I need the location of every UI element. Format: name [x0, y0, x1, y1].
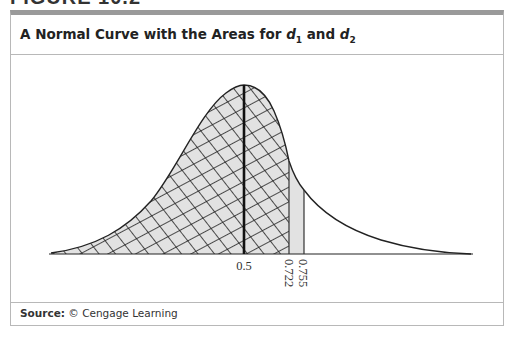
figure-frame: A Normal Curve with the Areas for d1 and… — [10, 10, 504, 326]
title-var-d2: d — [340, 26, 350, 42]
figure-title: A Normal Curve with the Areas for d1 and… — [20, 26, 356, 45]
source-footer: Source: © Cengage Learning — [11, 302, 503, 325]
title-row: A Normal Curve with the Areas for d1 and… — [11, 15, 503, 55]
normal-curve-chart: 0.5 0.722 0.755 — [11, 55, 505, 303]
title-mid: and — [302, 26, 340, 42]
region-d2 — [289, 161, 304, 254]
tick-label-0.722: 0.722 — [282, 259, 296, 287]
title-sub-2: 2 — [350, 35, 356, 45]
crosshatch-pattern — [41, 71, 301, 261]
chart-area: 0.5 0.722 0.755 — [11, 55, 503, 303]
tick-label-0.5: 0.5 — [236, 259, 252, 273]
source-line: Source: © Cengage Learning — [20, 307, 178, 319]
title-prefix: A Normal Curve with the Areas for — [20, 26, 286, 42]
source-text: © Cengage Learning — [65, 307, 178, 319]
tick-label-0.755: 0.755 — [296, 259, 310, 287]
source-label: Source: — [20, 307, 65, 319]
figure-label: FIGURE 10.2 — [10, 0, 141, 9]
title-var-d1: d — [286, 26, 296, 42]
